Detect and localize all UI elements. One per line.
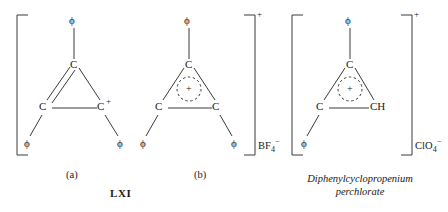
bond-apex-bottomright-a <box>79 68 100 100</box>
structure-b-right-bracket <box>244 15 255 155</box>
bond-bottomleft-to-phi-a <box>30 115 42 136</box>
structure-c-left-bracket <box>292 15 303 155</box>
structure-label-b: (b) <box>194 170 206 181</box>
chemical-structures-figure: ϕ C C C + ϕ ϕ (a) ϕ C C C + ϕ ϕ + BF4− (… <box>0 0 448 212</box>
bond-apex-bottomleft-a-2 <box>52 70 75 103</box>
substituent-phi-bottom-left-a: ϕ <box>24 138 30 149</box>
bond-bottomright-to-phi-a <box>105 115 118 136</box>
counterion-bf4-superscript: − <box>275 137 280 146</box>
bond-apex-bottomleft-c <box>324 68 345 100</box>
bond-bottomleft-to-phi-c <box>307 115 319 136</box>
atom-apex-b: C <box>185 59 192 70</box>
substituent-phi-bottom-left-c: ϕ <box>301 138 307 149</box>
substituent-phi-apex-c: ϕ <box>345 15 351 26</box>
compound-caption: Diphenylcyclopropenium perchlorate <box>280 172 440 198</box>
atom-bottom-right-c: CH <box>370 101 385 112</box>
bond-bottomright-to-phi-b <box>220 115 232 136</box>
substituent-phi-bottom-left-b: ϕ <box>140 138 146 149</box>
atom-bottom-right-a: C <box>97 101 104 112</box>
bracket-charge-c: + <box>414 10 419 19</box>
substituent-phi-bottom-right-b: ϕ <box>231 138 237 149</box>
bond-bottomleft-to-phi-b <box>146 115 158 136</box>
substituent-phi-bottom-right-a: ϕ <box>117 138 123 149</box>
atom-apex-a: C <box>70 59 77 70</box>
counterion-clo4-formula: ClO <box>415 140 433 151</box>
bond-apex-bottomright-c <box>355 68 374 100</box>
atom-bottom-left-c: C <box>316 101 323 112</box>
bond-apex-bottomleft-a-1 <box>47 67 70 100</box>
structure-c-right-bracket <box>401 15 412 155</box>
atom-apex-c: C <box>346 59 353 70</box>
counterion-clo4-superscript: − <box>437 137 442 146</box>
bond-apex-bottomright-b <box>194 68 215 100</box>
atom-bottom-right-b: C <box>212 101 219 112</box>
delocalized-positive-charge-b: + <box>186 84 192 94</box>
counterion-clo4: ClO4− <box>415 138 442 154</box>
bond-apex-bottomleft-b <box>163 68 184 100</box>
substituent-phi-apex-a: ϕ <box>69 15 75 26</box>
atom-bottom-left-b: C <box>155 101 162 112</box>
counterion-bf4-formula: BF <box>258 140 271 151</box>
atom-bottom-left-a: C <box>39 101 46 112</box>
bracket-charge-b: + <box>257 10 262 19</box>
structure-a-group <box>17 15 118 155</box>
compound-caption-line2: perchlorate <box>280 185 440 198</box>
compound-caption-line1: Diphenylcyclopropenium <box>280 172 440 185</box>
structure-b-group <box>146 15 255 155</box>
structure-label-a: (a) <box>66 170 78 181</box>
structure-a-left-bracket <box>17 15 28 155</box>
counterion-bf4: BF4− <box>258 138 280 154</box>
substituent-phi-apex-b: ϕ <box>184 15 190 26</box>
carbocation-charge-a: + <box>106 97 111 106</box>
figure-designation-lxi: LXI <box>110 188 131 199</box>
delocalized-positive-charge-c: + <box>347 84 353 94</box>
